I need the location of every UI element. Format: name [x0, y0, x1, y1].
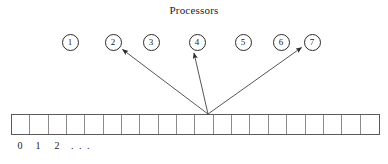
memory-cell[interactable] [85, 115, 103, 134]
memory-cell[interactable] [269, 115, 287, 134]
memory-cell[interactable] [342, 115, 360, 134]
memory-cell[interactable] [324, 115, 342, 134]
memory-cell[interactable] [140, 115, 158, 134]
memory-cell[interactable] [250, 115, 268, 134]
memory-cell[interactable] [12, 115, 30, 134]
processor-node-4[interactable]: 4 [189, 34, 206, 51]
processors-mapping-figure: Processors 1 2 3 4 5 6 7 0 1 2 . . . [0, 0, 388, 164]
processor-node-3[interactable]: 3 [143, 34, 160, 51]
array-index-ellipsis: . . . [67, 140, 95, 151]
array-index-label: 1 [29, 140, 47, 151]
memory-cell[interactable] [214, 115, 232, 134]
memory-cell[interactable] [159, 115, 177, 134]
array-index-labels: 0 1 2 . . . [11, 140, 371, 156]
memory-cell[interactable] [195, 115, 213, 134]
memory-cell[interactable] [49, 115, 67, 134]
processor-node-5[interactable]: 5 [235, 34, 252, 51]
memory-cell[interactable] [232, 115, 250, 134]
memory-array [11, 114, 380, 135]
memory-cell[interactable] [104, 115, 122, 134]
array-index-label: 2 [48, 140, 66, 151]
memory-cell[interactable] [67, 115, 85, 134]
arrow-to-processor-7 [208, 48, 302, 115]
memory-cell[interactable] [30, 115, 48, 134]
processor-node-7[interactable]: 7 [304, 34, 321, 51]
memory-cell[interactable] [361, 115, 379, 134]
processor-node-6[interactable]: 6 [273, 34, 290, 51]
processor-node-1[interactable]: 1 [62, 34, 79, 51]
array-index-label: 0 [11, 140, 29, 151]
processor-node-2[interactable]: 2 [105, 34, 122, 51]
memory-cell[interactable] [306, 115, 324, 134]
memory-cell[interactable] [177, 115, 195, 134]
memory-cell[interactable] [287, 115, 305, 134]
memory-cell[interactable] [122, 115, 140, 134]
